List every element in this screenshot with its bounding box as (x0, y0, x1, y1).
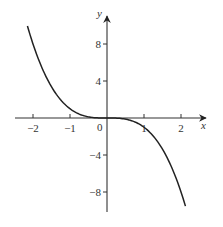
y-tick-label: −8 (89, 186, 101, 198)
y-tick-label: 8 (96, 38, 102, 50)
y-axis-label: y (96, 7, 102, 19)
x-ticks: −2−112 (27, 114, 184, 134)
cubic-curve (27, 26, 185, 206)
chart-canvas: −2−112 84−4−8 x y 0 (0, 0, 223, 227)
y-tick-label: −4 (89, 149, 101, 161)
x-tick-label: 2 (178, 122, 184, 134)
x-tick-label: −1 (64, 122, 76, 134)
x-axis-label: x (200, 119, 206, 131)
x-tick-label: −2 (27, 122, 39, 134)
y-tick-label: 4 (96, 75, 102, 87)
origin-label: 0 (97, 121, 103, 133)
cubic-graph: −2−112 84−4−8 x y 0 (0, 0, 223, 227)
